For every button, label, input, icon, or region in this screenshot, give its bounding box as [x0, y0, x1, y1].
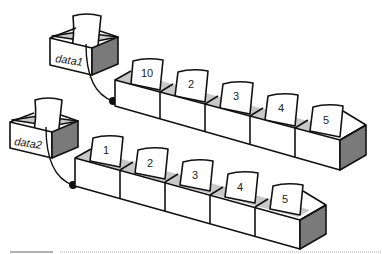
- list-data1-item-0: 10: [141, 67, 153, 79]
- list-data1-item-3: 4: [278, 102, 284, 114]
- list-data2-item-3: 4: [237, 181, 243, 193]
- list-data1-item-4: 5: [323, 114, 329, 126]
- list-data2-item-1: 2: [147, 157, 153, 169]
- variable-box-data1: [50, 14, 118, 75]
- list-data1-item-1: 2: [188, 78, 194, 90]
- list-data2-item-4: 5: [282, 193, 288, 205]
- list-data2-item-2: 3: [192, 169, 198, 181]
- list-data1-item-2: 3: [233, 90, 239, 102]
- list-data2-item-0: 1: [103, 144, 109, 156]
- variables-lists-diagram: data1: [0, 0, 382, 254]
- variable-box-data2: [10, 98, 78, 158]
